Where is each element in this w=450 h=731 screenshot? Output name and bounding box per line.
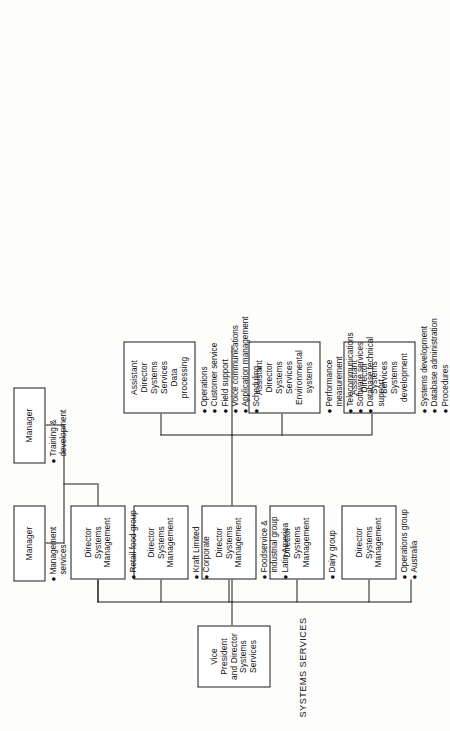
bullet-dot-icon: ● [251,406,261,413]
node-manager-management-services[interactable]: Manager [13,505,45,581]
bullet-text: Operations group [399,509,409,572]
connector-a1-stub [371,413,372,435]
node-director-foodservice-group-line2: Systems [224,517,234,567]
bullet-dot-icon: ● [199,406,209,413]
bullet-text: Dairy group [327,530,337,572]
list-item: ● Voice communications [230,316,240,413]
connector-d1b-stub [410,579,411,602]
node-vice-president[interactable]: Vice President and Director Systems Serv… [197,625,270,687]
bullet-text: Operations [199,366,209,406]
bullet-dot-icon: ● [240,406,250,413]
list-item: measurement [334,332,344,413]
connector-directors-trunk-lower [231,601,411,602]
bullet-dot-icon: ● [399,572,409,579]
node-director-retail-food-group-line3: Management [102,517,112,567]
node-director-retail-food-group-line2: Systems [93,517,103,567]
node-director-kraft-limited-line3: Management [165,517,175,567]
bullet-text: Retail food group [128,510,138,572]
node-manager-management-services-line1: Manager [24,526,34,560]
node-ad-systems-development-line4: Systems [389,345,399,409]
node-ad-environmental-systems-line4: Environmental [294,345,304,409]
node-director-kraft-limited-line2: Systems [156,517,166,567]
list-item: ● Dairy group [327,530,337,579]
bullet-dot-icon: ● [48,456,58,463]
bullet-dot-icon: ● [327,572,337,579]
connector-a2-stub [281,413,282,435]
list-item: ● Database administration [429,318,439,413]
bullet-text: Customer service [209,342,219,406]
bullet-dot-icon: ● [48,574,58,581]
bullet-dot-icon: ● [259,572,269,579]
node-director-operations-group-line3: Management [373,517,383,567]
bullet-text: Performance [324,359,334,406]
node-manager-training-development-line1: Manager [24,408,34,442]
bullets-director-dairy-group: ● Dairy group [327,530,337,579]
connector-d2-stub [296,579,297,602]
list-item: ● Telecommunications [345,332,355,413]
bullet-dot-icon: ● [409,572,419,579]
connector-a3-stub [160,413,161,435]
bullet-text: industrial group [269,516,279,572]
node-vice-president-line1: Vice President [209,629,229,683]
bullets-director-foodservice-group: ● Foodservice & industrial group ● Latin… [259,516,290,579]
list-item: ● Retail food group [128,510,138,579]
list-item: ● Application management [240,316,250,413]
connector-d1-stub [368,579,369,602]
bullet-text: support [376,379,386,406]
connector-managers-trunk [63,483,98,484]
node-ad-environmental-systems-line2: Director [264,345,274,409]
list-item: ● Procedures [440,318,450,413]
list-item: development [58,409,68,463]
node-ad-systems-development-line5: development [399,345,409,409]
connector-ad-trunk [231,434,371,435]
bullet-dot-icon: ● [324,406,334,413]
bullet-dot-icon: ● [128,572,138,579]
bullet-dot-icon: ● [419,406,429,413]
node-ad-data-processing-line2: Director [139,345,149,409]
bullet-text: services [58,544,68,574]
bullet-text: Systems development [419,325,429,406]
bullet-dot-icon: ● [355,406,365,413]
bullet-dot-icon: ● [191,572,201,579]
bullet-text: Corporate [201,536,211,572]
bullets-ad-data-processing: ● Operations ● Customer service ● Field … [199,316,261,413]
list-item: ● Management [48,526,58,581]
list-item: ● Field support [220,316,230,413]
node-ad-data-processing-line3: Systems Services [149,345,169,409]
list-item: ● Corporate [201,526,211,579]
bullet-text: Software services [355,341,365,406]
bullet-text: Procedures [440,364,450,406]
list-item: ● Training & [48,409,58,463]
bullet-text: measurement [334,356,344,406]
bullet-dot-icon: ● [230,406,240,413]
node-director-retail-food-group-line1: Director [83,517,93,567]
bullets-ad-environmental-systems: ● Performance measurement ● Telecommunic… [324,332,386,413]
list-item: ● Operations [199,316,209,413]
connector-directors-trunk [97,601,232,602]
node-director-foodservice-group-line1: Director [214,517,224,567]
node-director-operations-group[interactable]: Director Systems Management [341,505,396,579]
node-ad-data-processing-line5: processing [179,345,189,409]
bullets-director-operations-group: ● Operations group ● Australia [399,509,420,579]
node-director-retail-food-group[interactable]: Director Systems Management [70,505,125,579]
node-director-dairy-group-line3: Management [301,517,311,567]
node-director-foodservice-group-line3: Management [233,517,243,567]
list-item: ● Customer service [209,316,219,413]
bullet-text: Training & [48,419,58,456]
bullet-dot-icon: ● [209,406,219,413]
list-item: ● Database technical [365,332,375,413]
connector-d4-stub [160,579,161,602]
node-ad-environmental-systems-line3: Systems Services [274,345,294,409]
node-manager-training-development[interactable]: Manager [13,387,45,463]
list-item: ● Software services [355,332,365,413]
list-item: ● Australia [409,509,419,579]
node-director-kraft-limited-line1: Director [146,517,156,567]
node-assistant-director-data-processing[interactable]: Assistant Director Systems Services Data… [123,341,195,413]
node-director-kraft-limited[interactable]: Director Systems Management [133,505,188,579]
bullet-text: Australia [409,540,419,572]
bullet-dot-icon: ● [440,406,450,413]
bullet-text: Latin America [280,522,290,572]
node-vice-president-line2: and Director [229,629,239,683]
bullets-director-kraft-limited: ● Kraft Limited ● Corporate [191,526,212,579]
